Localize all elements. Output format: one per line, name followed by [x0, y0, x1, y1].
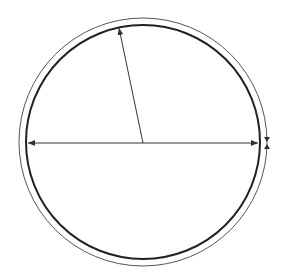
- radius-arrow: [119, 28, 143, 143]
- circle-diagram: [0, 0, 281, 277]
